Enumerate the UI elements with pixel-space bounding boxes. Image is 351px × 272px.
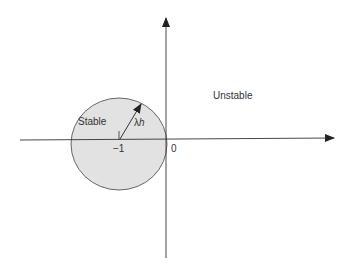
minus-one-label: −1 [113, 143, 125, 154]
real-axis [20, 138, 334, 140]
stability-diagram: Stable Unstable −1 0 λh [0, 0, 351, 272]
h-symbol: h [139, 117, 145, 128]
stable-label: Stable [78, 116, 107, 127]
radius-label: λh [134, 117, 145, 128]
origin-label: 0 [171, 143, 177, 154]
unstable-label: Unstable [213, 90, 253, 101]
